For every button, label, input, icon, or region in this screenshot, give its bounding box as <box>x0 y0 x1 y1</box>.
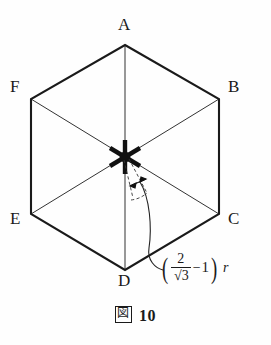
vertex-label-e: E <box>10 210 20 227</box>
minus-operator: − <box>192 260 202 276</box>
radicand: 3 <box>182 268 189 283</box>
square-root-group: √3 <box>173 269 189 283</box>
dashed-arc <box>131 193 147 200</box>
vertex-label-a: A <box>118 16 130 33</box>
operand-one: 1 <box>202 259 210 276</box>
caption-number: 10 <box>132 307 156 324</box>
variable-r: r <box>219 260 228 276</box>
figure-container: A B C D E F ( 2 √3 − 1 ) r 図10 <box>0 0 271 345</box>
caption-kanji-zu: 図 <box>115 306 132 323</box>
vertex-label-c: C <box>228 210 239 227</box>
vertex-label-b: B <box>228 78 239 95</box>
center-star-marker <box>110 140 140 174</box>
right-paren: ) <box>211 256 217 279</box>
formula-annotation: ( 2 √3 − 1 ) r <box>160 252 229 283</box>
left-paren: ( <box>162 256 168 279</box>
vertex-label-d: D <box>118 272 130 289</box>
fraction-numerator: 2 <box>175 252 186 267</box>
fraction-denominator: √3 <box>171 268 191 283</box>
hexagon-diagram <box>0 0 271 345</box>
vertex-label-f: F <box>10 78 19 95</box>
radical-sign: √ <box>174 268 182 283</box>
figure-caption: 図10 <box>0 306 271 325</box>
fraction-two-over-root-three: 2 √3 <box>171 252 191 283</box>
